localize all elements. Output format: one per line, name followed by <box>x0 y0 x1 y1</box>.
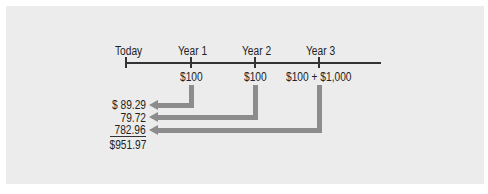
timeline-axis <box>125 62 381 64</box>
pv-year-3: 782.96 <box>115 123 146 137</box>
arrow-year-2-horizontal <box>158 115 258 120</box>
arrow-year-2-head-icon <box>149 112 158 122</box>
tick-year-3 <box>318 57 320 68</box>
arrow-year-1-head-icon <box>149 100 158 110</box>
pv-year-1: $ 89.29 <box>112 98 146 112</box>
diagram-panel <box>6 6 484 184</box>
arrow-year-3-vertical <box>317 85 322 133</box>
tick-today <box>125 57 127 68</box>
cash-flow-year-1: $100 <box>180 70 203 84</box>
pv-total: $951.97 <box>109 138 146 152</box>
cash-flow-year-2: $100 <box>244 70 267 84</box>
arrow-year-3-head-icon <box>149 125 158 135</box>
sum-rule <box>110 136 146 137</box>
arrow-year-3-horizontal <box>158 128 322 133</box>
timeline-label-year-2: Year 2 <box>242 44 271 58</box>
arrow-year-1-horizontal <box>158 103 194 108</box>
tick-year-2 <box>254 57 256 68</box>
tick-year-1 <box>190 57 192 68</box>
timeline-label-year-3: Year 3 <box>306 44 335 58</box>
timeline-label-year-1: Year 1 <box>178 44 207 58</box>
cash-flow-year-3: $100 + $1,000 <box>286 70 352 84</box>
timeline-label-today: Today <box>115 44 142 58</box>
